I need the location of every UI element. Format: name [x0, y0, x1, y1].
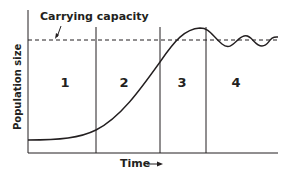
logistic-growth-diagram: [0, 0, 294, 174]
time-arrowhead-icon: [157, 162, 163, 167]
carrying-capacity-label: Carrying capacity: [40, 10, 149, 23]
phase-1-label: 1: [60, 75, 69, 90]
phase-2-label: 2: [119, 75, 128, 90]
phase-3-label: 3: [177, 75, 186, 90]
y-axis-label: Population size: [12, 44, 23, 130]
phase-4-label: 4: [231, 75, 240, 90]
x-axis-label: Time: [120, 157, 150, 170]
